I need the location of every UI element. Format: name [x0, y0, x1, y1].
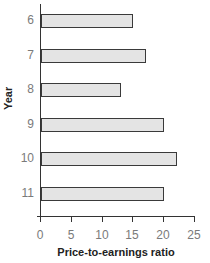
bar-year-6 — [41, 14, 133, 28]
x-tick — [194, 216, 195, 222]
bar-year-9 — [41, 118, 164, 132]
category-label: 8 — [0, 82, 34, 96]
x-tick — [132, 216, 133, 222]
x-tick — [102, 216, 103, 222]
x-tick — [71, 216, 72, 222]
x-tick-label: 10 — [92, 228, 112, 242]
x-axis-line — [37, 216, 195, 217]
y-axis-line — [40, 4, 41, 217]
bar-year-7 — [41, 49, 146, 63]
bar-year-10 — [41, 152, 177, 166]
bar-chart: Year 67891011 0510152025 Price-to-earnin… — [0, 0, 210, 263]
category-label: 7 — [0, 48, 34, 62]
category-label: 6 — [0, 13, 34, 27]
x-tick — [163, 216, 164, 222]
x-tick-label: 15 — [122, 228, 142, 242]
x-tick-label: 25 — [184, 228, 204, 242]
category-label: 11 — [0, 186, 34, 200]
x-axis-label: Price-to-earnings ratio — [0, 246, 210, 258]
bar-year-8 — [41, 83, 121, 97]
x-tick-label: 0 — [30, 228, 50, 242]
x-tick — [40, 216, 41, 222]
x-tick-label: 20 — [153, 228, 173, 242]
category-label: 9 — [0, 117, 34, 131]
x-tick-label: 5 — [61, 228, 81, 242]
category-label: 10 — [0, 151, 34, 165]
bar-year-11 — [41, 187, 164, 201]
